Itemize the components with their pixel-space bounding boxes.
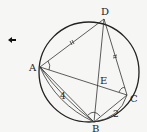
label-D: D [101,6,109,17]
angle-mark-B [88,112,100,116]
angle-mark-C [119,88,125,93]
geometry-diagram: D A E C B 4 2 [0,0,147,132]
length-AB: 4 [60,91,66,101]
segment-AB [40,67,94,122]
arrow-left-icon [8,37,16,43]
label-C: C [130,93,138,104]
label-B: B [92,123,99,132]
length-BC: 2 [113,109,119,119]
label-E: E [100,75,107,86]
label-A: A [28,62,37,73]
circumcircle [39,22,139,122]
segment-AD [40,19,104,67]
segment-DB [94,19,104,122]
segment-AC [40,67,127,95]
segment-BC [94,95,127,122]
angle-mark-A [48,61,50,70]
equal-marks [70,40,117,58]
